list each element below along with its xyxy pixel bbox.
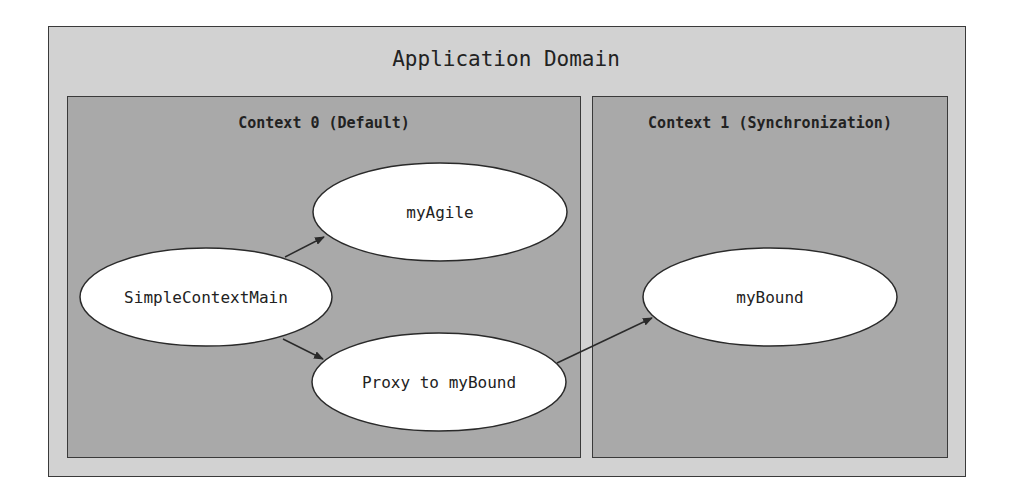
node-label-simple-context-main: SimpleContextMain bbox=[124, 288, 288, 307]
edge-main-to-proxy bbox=[283, 339, 323, 359]
node-label-my-agile: myAgile bbox=[406, 203, 473, 222]
node-label-my-bound: myBound bbox=[736, 288, 803, 307]
node-label-proxy-to-my-bound: Proxy to myBound bbox=[362, 373, 516, 392]
edge-proxy-to-bound bbox=[557, 318, 652, 363]
edge-main-to-agile bbox=[285, 237, 324, 257]
diagram-shapes bbox=[0, 0, 1012, 500]
